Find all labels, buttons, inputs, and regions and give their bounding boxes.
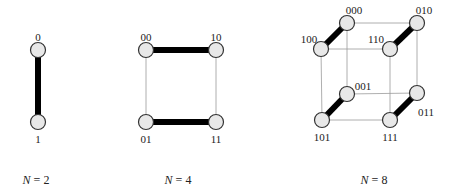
panel-captions: N = 2N = 4N = 8 [22,173,388,187]
graph-node [383,113,398,128]
graph-node [31,115,46,130]
graph-node [139,43,154,58]
node-label: 000 [346,4,363,16]
node-label: 010 [416,4,433,16]
node-label: 100 [301,33,318,45]
panel-caption: N = 2 [22,173,50,187]
node-labels: 0100100111000010100110001011101111 [35,4,434,145]
node-label: 10 [211,31,223,43]
node-label: 110 [368,33,385,45]
thick-edges [38,23,417,122]
node-label: 101 [314,131,331,143]
graph-node [209,115,224,130]
graph-node [340,87,355,102]
node-label: 11 [211,133,222,145]
hypercube-diagram: 0100100111000010100110001011101111 N = 2… [0,0,453,194]
node-label: 1 [35,133,41,145]
panel-caption: N = 4 [164,173,192,187]
panel-caption: N = 8 [360,173,388,187]
graph-node [139,115,154,130]
node-label: 111 [382,131,398,143]
node-label: 0 [35,31,41,43]
graph-node [383,42,398,57]
graph-node [410,16,425,31]
node-label: 001 [355,80,372,92]
node-label: 01 [141,133,152,145]
graph-node [31,43,46,58]
node-label: 00 [141,31,153,43]
node-label: 011 [418,106,434,118]
thin-edge [347,93,417,94]
graph-node [340,16,355,31]
graph-node [410,86,425,101]
nodes [31,16,425,130]
graph-node [209,43,224,58]
graph-node [315,113,330,128]
thin-edge [321,49,322,120]
